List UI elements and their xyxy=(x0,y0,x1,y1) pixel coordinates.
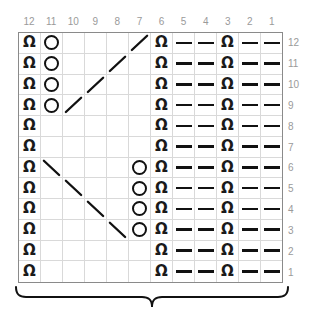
cell-r11-c12[interactable]: Ω xyxy=(19,54,41,75)
cell-r6-c3[interactable]: Ω xyxy=(217,158,239,179)
cell-r4-c3[interactable]: Ω xyxy=(217,199,239,220)
cell-r7-c1[interactable] xyxy=(261,137,282,158)
cell-r10-c5[interactable] xyxy=(173,75,195,96)
cell-r1-c12[interactable]: Ω xyxy=(19,261,41,282)
cell-r7-c4[interactable] xyxy=(195,137,217,158)
cell-r1-c11[interactable] xyxy=(41,261,63,282)
cell-r9-c1[interactable] xyxy=(261,95,282,116)
cell-r7-c5[interactable] xyxy=(173,137,195,158)
cell-r1-c9[interactable] xyxy=(85,261,107,282)
cell-r1-c4[interactable] xyxy=(195,261,217,282)
cell-r2-c6[interactable]: Ω xyxy=(151,241,173,262)
cell-r2-c7[interactable] xyxy=(129,241,151,262)
cell-r4-c4[interactable] xyxy=(195,199,217,220)
cell-r9-c7[interactable] xyxy=(129,95,151,116)
cell-r4-c6[interactable]: Ω xyxy=(151,199,173,220)
cell-r7-c9[interactable] xyxy=(85,137,107,158)
cell-r6-c12[interactable]: Ω xyxy=(19,158,41,179)
cell-r4-c5[interactable] xyxy=(173,199,195,220)
cell-r8-c12[interactable]: Ω xyxy=(19,116,41,137)
cell-r3-c7[interactable] xyxy=(129,220,151,241)
cell-r8-c5[interactable] xyxy=(173,116,195,137)
cell-r6-c2[interactable] xyxy=(239,158,261,179)
cell-r3-c11[interactable] xyxy=(41,220,63,241)
cell-r5-c5[interactable] xyxy=(173,178,195,199)
cell-r2-c5[interactable] xyxy=(173,241,195,262)
cell-r7-c8[interactable] xyxy=(107,137,129,158)
cell-r3-c6[interactable]: Ω xyxy=(151,220,173,241)
cell-r10-c12[interactable]: Ω xyxy=(19,75,41,96)
cell-r10-c10[interactable] xyxy=(63,75,85,96)
cell-r8-c2[interactable] xyxy=(239,116,261,137)
cell-r8-c3[interactable]: Ω xyxy=(217,116,239,137)
cell-r8-c4[interactable] xyxy=(195,116,217,137)
cell-r9-c11[interactable] xyxy=(41,95,63,116)
cell-r7-c2[interactable] xyxy=(239,137,261,158)
cell-r12-c2[interactable] xyxy=(239,33,261,54)
cell-r5-c7[interactable] xyxy=(129,178,151,199)
cell-r1-c3[interactable]: Ω xyxy=(217,261,239,282)
cell-r10-c8[interactable] xyxy=(107,75,129,96)
cell-r4-c7[interactable] xyxy=(129,199,151,220)
cell-r5-c11[interactable] xyxy=(41,178,63,199)
cell-r11-c7[interactable] xyxy=(129,54,151,75)
cell-r11-c1[interactable] xyxy=(261,54,282,75)
cell-r5-c1[interactable] xyxy=(261,178,282,199)
cell-r6-c6[interactable]: Ω xyxy=(151,158,173,179)
cell-r3-c2[interactable] xyxy=(239,220,261,241)
cell-r5-c9[interactable] xyxy=(85,178,107,199)
cell-r2-c4[interactable] xyxy=(195,241,217,262)
cell-r6-c7[interactable] xyxy=(129,158,151,179)
cell-r11-c9[interactable] xyxy=(85,54,107,75)
cell-r4-c8[interactable] xyxy=(107,199,129,220)
cell-r8-c11[interactable] xyxy=(41,116,63,137)
cell-r10-c7[interactable] xyxy=(129,75,151,96)
cell-r4-c9[interactable] xyxy=(85,199,107,220)
cell-r12-c10[interactable] xyxy=(63,33,85,54)
cell-r12-c1[interactable] xyxy=(261,33,282,54)
cell-r11-c6[interactable]: Ω xyxy=(151,54,173,75)
cell-r8-c8[interactable] xyxy=(107,116,129,137)
cell-r6-c1[interactable] xyxy=(261,158,282,179)
cell-r3-c8[interactable] xyxy=(107,220,129,241)
cell-r6-c9[interactable] xyxy=(85,158,107,179)
cell-r1-c10[interactable] xyxy=(63,261,85,282)
cell-r3-c12[interactable]: Ω xyxy=(19,220,41,241)
cell-r10-c6[interactable]: Ω xyxy=(151,75,173,96)
cell-r10-c3[interactable]: Ω xyxy=(217,75,239,96)
cell-r5-c8[interactable] xyxy=(107,178,129,199)
cell-r6-c5[interactable] xyxy=(173,158,195,179)
cell-r6-c4[interactable] xyxy=(195,158,217,179)
cell-r11-c2[interactable] xyxy=(239,54,261,75)
cell-r7-c10[interactable] xyxy=(63,137,85,158)
cell-r9-c5[interactable] xyxy=(173,95,195,116)
cell-r5-c12[interactable]: Ω xyxy=(19,178,41,199)
cell-r8-c6[interactable]: Ω xyxy=(151,116,173,137)
cell-r9-c6[interactable]: Ω xyxy=(151,95,173,116)
cell-r8-c7[interactable] xyxy=(129,116,151,137)
cell-r6-c8[interactable] xyxy=(107,158,129,179)
cell-r10-c2[interactable] xyxy=(239,75,261,96)
cell-r9-c2[interactable] xyxy=(239,95,261,116)
cell-r1-c1[interactable] xyxy=(261,261,282,282)
cell-r11-c3[interactable]: Ω xyxy=(217,54,239,75)
cell-r10-c9[interactable] xyxy=(85,75,107,96)
cell-r12-c7[interactable] xyxy=(129,33,151,54)
cell-r8-c1[interactable] xyxy=(261,116,282,137)
cell-r5-c2[interactable] xyxy=(239,178,261,199)
cell-r11-c11[interactable] xyxy=(41,54,63,75)
cell-r3-c5[interactable] xyxy=(173,220,195,241)
cell-r12-c12[interactable]: Ω xyxy=(19,33,41,54)
cell-r2-c3[interactable]: Ω xyxy=(217,241,239,262)
cell-r9-c12[interactable]: Ω xyxy=(19,95,41,116)
cell-r7-c12[interactable]: Ω xyxy=(19,137,41,158)
cell-r5-c3[interactable]: Ω xyxy=(217,178,239,199)
cell-r6-c10[interactable] xyxy=(63,158,85,179)
cell-r8-c10[interactable] xyxy=(63,116,85,137)
cell-r7-c6[interactable]: Ω xyxy=(151,137,173,158)
cell-r12-c4[interactable] xyxy=(195,33,217,54)
cell-r5-c6[interactable]: Ω xyxy=(151,178,173,199)
cell-r7-c11[interactable] xyxy=(41,137,63,158)
cell-r2-c10[interactable] xyxy=(63,241,85,262)
cell-r2-c12[interactable]: Ω xyxy=(19,241,41,262)
